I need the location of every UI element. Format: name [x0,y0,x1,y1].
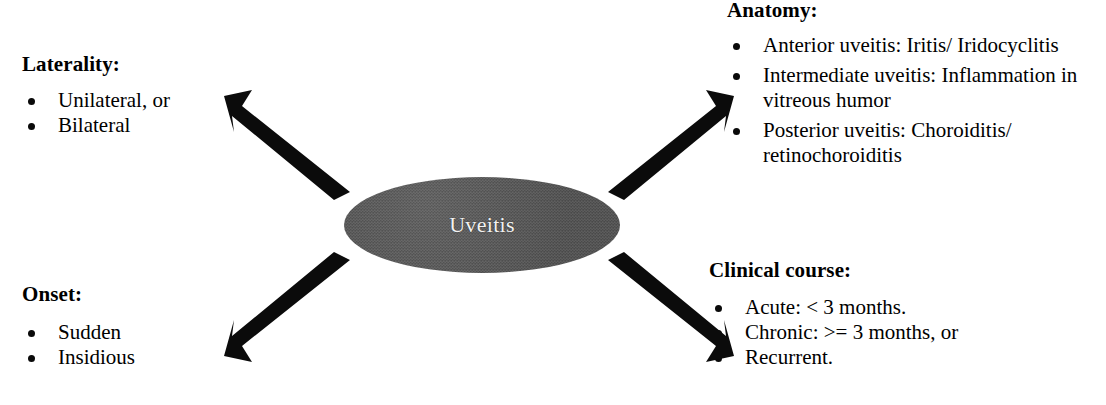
arrow-north-west-icon [222,88,352,200]
branch-laterality-heading: Laterality: [22,52,170,76]
branch-laterality: Laterality: Unilateral, or Bilateral [22,52,170,138]
bullet-dot-icon [28,355,35,362]
list-item: Recurrent. [709,345,958,370]
center-node-uveitis: Uveitis [344,177,620,273]
branch-clinical-course-heading: Clinical course: [709,258,958,282]
branch-clinical-course: Clinical course: Acute: < 3 months. Chro… [709,258,958,370]
bullet-dot-icon [28,330,35,337]
list-item: Acute: < 3 months. [709,295,958,320]
branch-onset: Onset: Sudden Insidious [22,282,135,370]
bullet-dot-icon [715,355,722,362]
center-node-label: Uveitis [344,177,620,273]
bullet-dot-icon [715,305,722,312]
branch-anatomy-heading: Anatomy: [727,0,1106,22]
list-item: Anterior uveitis: Iritis/ Iridocyclitis [727,33,1106,58]
branch-anatomy-list: Anterior uveitis: Iritis/ Iridocyclitis … [727,33,1106,168]
bullet-dot-icon [715,330,722,337]
branch-clinical-course-list: Acute: < 3 months. Chronic: >= 3 months,… [709,295,958,370]
list-item-label: Insidious [58,345,135,370]
list-item-label: Recurrent. [745,345,958,370]
list-item-label: Acute: < 3 months. [745,295,958,320]
arrow-north-east-icon [606,88,736,200]
branch-laterality-list: Unilateral, or Bilateral [22,88,170,138]
uveitis-classification-diagram: Laterality: Unilateral, or Bilateral Ana… [0,0,1106,405]
bullet-dot-icon [28,123,35,130]
list-item-label: Anterior uveitis: Iritis/ Iridocyclitis [763,33,1106,58]
list-item-label: Unilateral, or [58,88,170,113]
arrow-south-west-icon [222,252,352,364]
list-item: Sudden [22,320,135,345]
list-item-label: Chronic: >= 3 months, or [745,320,958,345]
branch-onset-list: Sudden Insidious [22,320,135,370]
list-item-label: Sudden [58,320,135,345]
list-item: Insidious [22,345,135,370]
list-item-label: Posterior uveitis: Choroiditis/ retinoch… [763,118,1106,168]
bullet-dot-icon [733,128,740,135]
bullet-dot-icon [28,98,35,105]
branch-onset-heading: Onset: [22,282,135,306]
list-item: Posterior uveitis: Choroiditis/ retinoch… [727,118,1106,168]
list-item: Chronic: >= 3 months, or [709,320,958,345]
bullet-dot-icon [733,73,740,80]
list-item-label: Intermediate uveitis: Inflammation in vi… [763,63,1106,113]
list-item: Intermediate uveitis: Inflammation in vi… [727,63,1106,113]
list-item: Bilateral [22,113,170,138]
list-item-label: Bilateral [58,113,170,138]
bullet-dot-icon [733,43,740,50]
list-item: Unilateral, or [22,88,170,113]
branch-anatomy: Anatomy: Anterior uveitis: Iritis/ Irido… [727,0,1106,173]
